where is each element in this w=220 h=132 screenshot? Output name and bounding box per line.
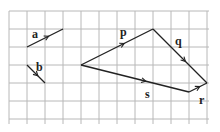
vector-b: b [27, 60, 45, 83]
vector-grid-diagram: abpqrs [0, 0, 220, 132]
vector-label: q [175, 34, 182, 48]
vector-label: a [32, 27, 38, 41]
vector-r: r [189, 83, 207, 107]
vector-label: s [145, 87, 150, 101]
vector-label: b [36, 60, 43, 74]
vector-label: r [199, 93, 205, 107]
vector-label: p [120, 25, 127, 39]
vector-q: q [153, 29, 207, 83]
